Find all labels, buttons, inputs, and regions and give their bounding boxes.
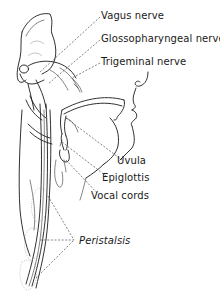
anatomy-diagram (0, 0, 220, 300)
label-peristalsis: Peristalsis (79, 236, 130, 246)
brainstem (20, 61, 83, 110)
label-uvula: Uvula (117, 156, 146, 166)
pharynx (55, 110, 104, 200)
brain-outline (17, 14, 56, 83)
label-vocal-cords: Vocal cords (91, 191, 149, 201)
label-epiglottis: Epiglottis (102, 173, 150, 183)
label-trigeminal-nerve: Trigeminal nerve (101, 57, 186, 67)
oral-cavity (62, 98, 125, 164)
label-vagus-nerve: Vagus nerve (101, 11, 164, 21)
face-profile (120, 72, 148, 160)
neck-esophagus (19, 96, 52, 290)
label-glossopharyngeal-nerve: Glossopharyngeal nerve (101, 34, 220, 44)
